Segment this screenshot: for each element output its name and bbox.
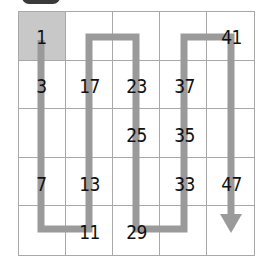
cell-number: 3	[18, 75, 65, 97]
number-layer: 1 41 3 17 23 37 25 35 7 13 33 47 11 29	[18, 11, 255, 256]
cell-number: 47	[208, 173, 255, 195]
cell-number: 1	[18, 26, 65, 48]
cell-number: 29	[113, 221, 160, 243]
header-tab	[22, 0, 60, 4]
cell-number: 41	[208, 26, 255, 48]
cell-number: 33	[161, 173, 208, 195]
cell-number: 7	[18, 173, 65, 195]
cell-number: 17	[66, 75, 113, 97]
cell-number: 13	[66, 173, 113, 195]
cell-number: 35	[161, 124, 208, 146]
cell-number: 11	[66, 221, 113, 243]
cell-number: 37	[161, 75, 208, 97]
cell-number: 25	[113, 124, 160, 146]
cell-number: 23	[113, 75, 160, 97]
